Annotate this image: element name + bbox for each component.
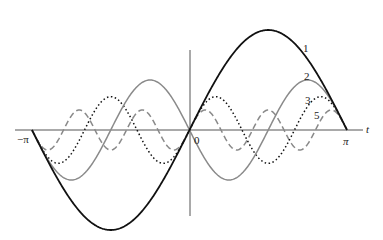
curve-1-label: 1 [303, 42, 309, 54]
pi-label: π [343, 135, 349, 147]
curve-3-label: 3 [305, 94, 311, 106]
zero-label: 0 [194, 134, 200, 146]
curve-2-label: 2 [304, 70, 310, 82]
curve-5-label: 5 [314, 109, 320, 121]
neg-pi-label: −π [17, 133, 29, 145]
t-axis-label: t [366, 123, 370, 135]
fourier-harmonics-diagram: −π 0 π t 1 2 3 5 [0, 0, 383, 240]
